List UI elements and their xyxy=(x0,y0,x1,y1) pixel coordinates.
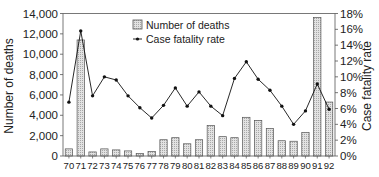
fatality-rate-point xyxy=(245,60,248,63)
fatality-rate-point xyxy=(221,114,224,117)
fatality-rate-line xyxy=(69,31,329,124)
bar-deaths xyxy=(278,141,285,156)
legend-label-fatality: Case fatality rate xyxy=(146,33,225,45)
left-tick-label: 8,000 xyxy=(29,69,58,81)
x-tick-label: 86 xyxy=(253,160,264,171)
x-tick-label: 81 xyxy=(194,160,205,171)
fatality-rate-point xyxy=(126,94,129,97)
fatality-rate-point xyxy=(292,123,295,126)
right-tick-label: 16% xyxy=(340,23,363,35)
right-tick-label: 0% xyxy=(340,150,357,162)
bar-deaths xyxy=(207,125,214,156)
left-axis-title: Number of deaths xyxy=(2,38,16,133)
fatality-rate-point xyxy=(268,89,271,92)
bar-deaths xyxy=(101,149,108,156)
x-tick-label: 91 xyxy=(312,160,323,171)
right-y-axis: 0%2%4%6%8%10%12%14%16%18% xyxy=(335,8,363,163)
x-tick-label: 75 xyxy=(123,160,134,171)
bar-deaths xyxy=(231,138,238,156)
fatality-rate-point xyxy=(91,94,94,97)
bar-deaths xyxy=(302,133,309,156)
fatality-rate-point xyxy=(138,106,141,109)
x-axis: 7071727374757677787980818283848586878889… xyxy=(63,156,335,171)
fatality-rate-point xyxy=(79,29,82,32)
x-tick-label: 87 xyxy=(265,160,276,171)
left-tick-label: 6,000 xyxy=(29,89,58,101)
legend-label-deaths: Number of deaths xyxy=(146,19,229,31)
bar-deaths xyxy=(243,117,250,156)
bar-deaths xyxy=(89,152,96,156)
x-tick-label: 76 xyxy=(135,160,146,171)
left-y-axis: 02,0004,0006,0008,00010,00012,00014,000 xyxy=(23,8,63,163)
fatality-rate-point xyxy=(197,90,200,93)
x-tick-label: 92 xyxy=(324,160,335,171)
x-tick-label: 83 xyxy=(217,160,228,171)
x-tick-label: 84 xyxy=(229,160,240,171)
x-tick-label: 85 xyxy=(241,160,252,171)
bar-deaths xyxy=(219,137,226,156)
fatality-rate-point xyxy=(316,82,319,85)
right-tick-label: 8% xyxy=(340,87,357,99)
x-tick-label: 88 xyxy=(276,160,287,171)
fatality-rate-point xyxy=(185,104,188,107)
left-tick-label: 12,000 xyxy=(23,28,58,40)
bar-deaths xyxy=(124,151,131,156)
left-tick-label: 4,000 xyxy=(29,109,58,121)
bar-deaths xyxy=(172,138,179,156)
bar-deaths xyxy=(65,149,72,156)
fatality-rate-point xyxy=(209,104,212,107)
x-tick-label: 79 xyxy=(170,160,181,171)
left-tick-label: 2,000 xyxy=(29,130,58,142)
legend: Number of deaths Case fatality rate xyxy=(133,19,229,45)
x-tick-label: 82 xyxy=(206,160,217,171)
x-tick-label: 74 xyxy=(111,160,122,171)
fatality-rate-point xyxy=(256,78,259,81)
x-tick-label: 73 xyxy=(99,160,110,171)
x-tick-label: 90 xyxy=(300,160,311,171)
fatality-rate-point xyxy=(150,116,153,119)
fatality-rate-point xyxy=(67,100,70,103)
bar-deaths xyxy=(148,151,155,156)
bar-deaths xyxy=(314,18,321,156)
legend-bar-swatch xyxy=(133,20,142,29)
right-axis-title: Case fatality rate xyxy=(360,41,374,131)
fatality-rate-point xyxy=(115,78,118,81)
legend-line-marker-icon xyxy=(133,37,142,40)
x-tick-label: 80 xyxy=(182,160,193,171)
right-tick-label: 2% xyxy=(340,134,357,146)
chart-container: 02,0004,0006,0008,00010,00012,00014,000 … xyxy=(0,0,379,177)
combo-chart: 02,0004,0006,0008,00010,00012,00014,000 … xyxy=(0,0,379,177)
x-tick-label: 78 xyxy=(158,160,169,171)
right-tick-label: 4% xyxy=(340,118,357,130)
fatality-rate-point xyxy=(280,104,283,107)
x-tick-label: 71 xyxy=(75,160,86,171)
right-tick-label: 18% xyxy=(340,8,363,20)
right-tick-label: 6% xyxy=(340,103,357,115)
fatality-rate-point xyxy=(327,108,330,111)
fatality-rate-point xyxy=(233,77,236,80)
bar-deaths xyxy=(266,129,273,156)
fatality-rate-point xyxy=(174,86,177,89)
bar-deaths xyxy=(160,140,167,156)
fatality-rate-point xyxy=(103,75,106,78)
left-tick-label: 10,000 xyxy=(23,48,58,60)
bar-deaths xyxy=(290,141,297,156)
x-tick-label: 72 xyxy=(87,160,98,171)
fatality-rate-point xyxy=(162,104,165,107)
left-tick-label: 14,000 xyxy=(23,8,58,20)
x-tick-label: 89 xyxy=(288,160,299,171)
bar-deaths xyxy=(77,40,84,156)
fatality-rate-point xyxy=(304,109,307,112)
x-tick-label: 70 xyxy=(64,160,75,171)
bar-deaths xyxy=(113,150,120,156)
bar-deaths xyxy=(184,144,191,156)
left-tick-label: 0 xyxy=(52,150,58,162)
bar-deaths xyxy=(254,120,261,156)
x-tick-label: 77 xyxy=(146,160,157,171)
bar-deaths xyxy=(195,140,202,156)
